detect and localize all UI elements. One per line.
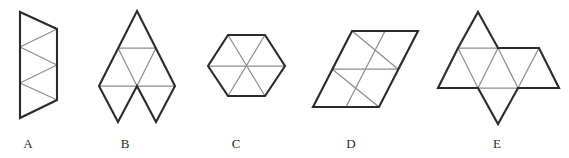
shape-d-inner-line xyxy=(332,69,379,107)
shape-b-triangle-cluster xyxy=(99,11,175,122)
shape-a-inner-line xyxy=(20,29,57,47)
shape-a-outline xyxy=(20,12,57,118)
figure-label-b: B xyxy=(105,136,145,152)
shape-d-rhombus xyxy=(313,31,418,107)
shape-e-inner-line xyxy=(518,48,539,88)
shape-e-inner-line xyxy=(478,48,498,88)
shape-e-outline xyxy=(438,12,559,124)
shape-e-inner-line xyxy=(458,48,478,88)
shape-e-triangle-cluster xyxy=(438,12,559,124)
figure-label-e: E xyxy=(477,136,517,152)
shape-c-hexagon xyxy=(208,35,285,96)
shape-a-inner-line xyxy=(20,47,57,65)
figure-label-c: C xyxy=(216,136,256,152)
figure-panel: A B C D E xyxy=(0,0,569,158)
figure-label-a: A xyxy=(8,136,48,152)
geometry-figure-canvas xyxy=(0,0,569,158)
shape-a-triangle-strip xyxy=(20,12,57,118)
shape-b-inner-line xyxy=(118,48,137,86)
shape-b-outline xyxy=(99,11,175,122)
shape-b-inner-line xyxy=(137,48,156,86)
shape-a-inner-line xyxy=(20,65,57,83)
shape-d-inner-line xyxy=(352,31,398,69)
shape-e-inner-line xyxy=(498,48,518,88)
shape-a-inner-line xyxy=(20,83,57,100)
figure-label-d: D xyxy=(331,136,371,152)
